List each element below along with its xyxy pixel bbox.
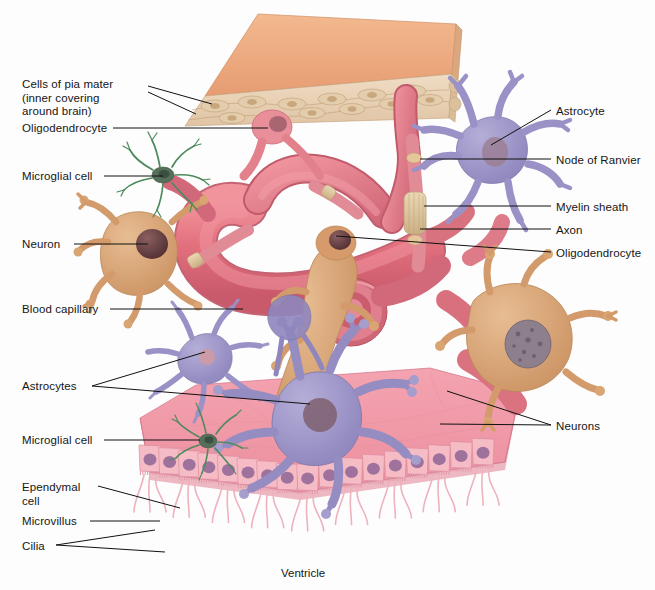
cilium bbox=[482, 468, 483, 505]
label-microvillus: Microvillus bbox=[22, 515, 77, 529]
figure-caption: Ventricle bbox=[281, 567, 325, 579]
ependymal-nucleus bbox=[455, 450, 468, 462]
leader-line-cilia bbox=[56, 530, 155, 545]
cilium bbox=[401, 481, 411, 518]
ependymal-nucleus bbox=[242, 467, 255, 479]
ependymal-nucleus bbox=[367, 463, 380, 475]
figure-canvas: Cells of pia mater (inner covering aroun… bbox=[0, 0, 655, 590]
label-microglial-cell-bottom: Microglial cell bbox=[22, 434, 93, 448]
cilium bbox=[445, 475, 455, 512]
cilium bbox=[227, 485, 228, 522]
cilium bbox=[134, 475, 144, 512]
label-ependymal-cell: Ependymal cell bbox=[22, 481, 80, 508]
cilium bbox=[357, 487, 367, 524]
cilium bbox=[252, 491, 262, 528]
ependymal-nucleus bbox=[183, 459, 196, 471]
cilium bbox=[188, 480, 189, 517]
ependymal-nucleus bbox=[163, 456, 176, 468]
pia-mater-slab bbox=[185, 14, 462, 126]
label-oligodendrocyte-top: Oligodendrocyte bbox=[22, 122, 107, 136]
cilium bbox=[306, 494, 307, 531]
label-astrocyte: Astrocyte bbox=[556, 105, 605, 119]
cilium bbox=[394, 481, 395, 518]
label-blood-capillary: Blood capillary bbox=[22, 303, 98, 317]
leader-line-pia-mater bbox=[148, 92, 196, 114]
label-astrocytes: Astrocytes bbox=[22, 380, 77, 394]
label-neurons: Neurons bbox=[556, 420, 600, 434]
leader-line-cilia bbox=[56, 545, 165, 552]
ependymal-nucleus bbox=[144, 454, 157, 466]
ependymal-nucleus bbox=[345, 466, 358, 478]
ependymal-nucleus bbox=[477, 447, 490, 459]
ependymal-nucleus bbox=[389, 460, 402, 472]
label-cilia: Cilia bbox=[22, 540, 45, 554]
cilium bbox=[489, 468, 499, 505]
cilium bbox=[212, 485, 222, 522]
label-myelin-sheath: Myelin sheath bbox=[556, 201, 628, 215]
cilium bbox=[173, 480, 183, 517]
cilium bbox=[266, 491, 267, 528]
cilium bbox=[438, 475, 439, 512]
label-axon: Axon bbox=[556, 224, 583, 238]
label-oligodendrocyte-right: Oligodendrocyte bbox=[556, 247, 641, 261]
ependymal-nucleus bbox=[301, 472, 314, 484]
label-microglial-cell-top: Microglial cell bbox=[22, 170, 93, 184]
label-pia-mater: Cells of pia mater (inner covering aroun… bbox=[22, 78, 113, 119]
cilium bbox=[350, 487, 351, 524]
label-node-of-ranvier: Node of Ranvier bbox=[556, 154, 641, 168]
cilium bbox=[149, 475, 150, 512]
label-neuron: Neuron bbox=[22, 238, 60, 252]
leader-line-pia-mater bbox=[148, 86, 212, 104]
ependymal-nucleus bbox=[433, 453, 446, 465]
